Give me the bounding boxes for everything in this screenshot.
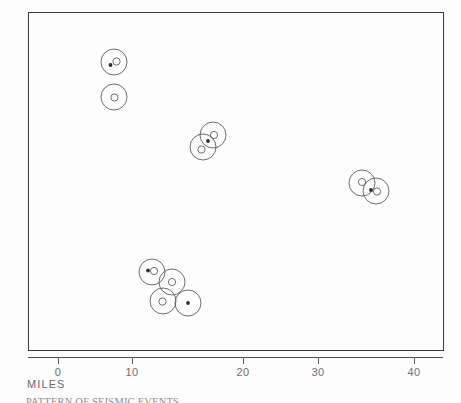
open-circle-icon <box>111 94 118 101</box>
filled-dot-icon <box>109 63 113 67</box>
data-point <box>101 49 127 75</box>
data-point <box>139 259 165 285</box>
data-point <box>190 134 216 160</box>
filled-dot-icon <box>369 188 373 192</box>
open-circle-icon <box>150 267 157 274</box>
x-tick-label-10: 10 <box>117 366 147 378</box>
open-circle-icon <box>113 58 120 65</box>
filled-dot-icon <box>146 269 150 273</box>
open-circle-icon <box>373 188 380 195</box>
seismic-scatter-figure: 0 10 20 30 40 MILES PATTERN OF SEISMIC E… <box>0 0 461 403</box>
data-point <box>363 178 389 204</box>
plot-canvas <box>0 0 461 403</box>
x-tick-label-30: 30 <box>303 366 333 378</box>
filled-dot-icon <box>186 301 190 305</box>
open-circle-icon <box>198 146 205 153</box>
x-axis-ticks <box>59 357 415 364</box>
data-point <box>200 122 226 148</box>
x-tick-label-40: 40 <box>399 366 429 378</box>
x-tick-label-0: 0 <box>43 366 73 378</box>
data-point <box>175 290 201 316</box>
filled-dot-icon <box>206 139 210 143</box>
data-point-group <box>101 49 389 316</box>
plot-frame <box>29 13 444 351</box>
data-point <box>349 170 375 196</box>
figure-caption: PATTERN OF SEISMIC EVENTS <box>26 396 456 403</box>
x-axis-title: MILES <box>27 378 66 390</box>
open-circle-icon <box>159 298 166 305</box>
open-circle-icon <box>168 278 175 285</box>
x-tick-label-20: 20 <box>228 366 258 378</box>
data-point <box>101 84 127 110</box>
